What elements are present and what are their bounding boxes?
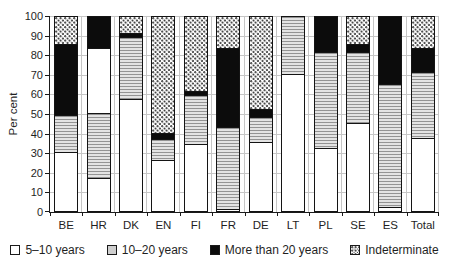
x-axis-tick xyxy=(212,212,213,216)
bar-segment-y20plus xyxy=(314,16,338,53)
legend-item-y20plus: More than 20 years xyxy=(210,243,328,257)
bar-segment-y10_20 xyxy=(411,73,435,140)
x-axis-tick xyxy=(82,212,83,216)
bar-segment-y10_20 xyxy=(378,85,402,208)
x-axis-tick xyxy=(180,212,181,216)
bar-EN xyxy=(151,16,175,212)
gridline-vertical xyxy=(406,16,407,212)
bar-segment-indet xyxy=(151,16,175,134)
bar-segment-y20plus xyxy=(249,110,273,118)
y-tick-label: 80 xyxy=(13,49,43,61)
plot-area: 0102030405060708090100BEHRDKENFIFRDELTPL… xyxy=(49,16,439,213)
gridline-vertical xyxy=(114,16,115,212)
legend-swatch-y10_20 xyxy=(107,245,117,255)
legend-swatch-y5_10 xyxy=(10,245,20,255)
y-axis-tick xyxy=(45,211,49,212)
bar-PL xyxy=(314,16,338,212)
y-axis-tick xyxy=(45,134,49,135)
x-axis-tick xyxy=(50,212,51,216)
legend-item-y10_20: 10–20 years xyxy=(107,243,188,257)
y-axis-tick xyxy=(45,36,49,37)
bar-segment-y5_10 xyxy=(314,149,338,212)
gridline-vertical xyxy=(146,16,147,212)
y-tick-label: 30 xyxy=(13,147,43,159)
legend-item-y5_10: 5–10 years xyxy=(10,243,84,257)
bar-segment-y5_10 xyxy=(87,49,111,114)
bar-segment-y5_10 xyxy=(411,139,435,212)
x-category-label: HR xyxy=(82,219,114,231)
bar-segment-y10_20 xyxy=(184,96,208,145)
bar-LT xyxy=(281,16,305,212)
y-axis-tick xyxy=(45,94,49,95)
x-category-label: FI xyxy=(180,219,212,231)
bar-segment-y20plus xyxy=(87,16,111,49)
y-axis-tick xyxy=(45,114,49,115)
x-category-label: ES xyxy=(374,219,406,231)
bar-segment-indet xyxy=(119,16,143,34)
gridline-vertical xyxy=(373,16,374,212)
x-category-label: DE xyxy=(245,219,277,231)
bar-segment-y10_20 xyxy=(314,53,338,149)
x-category-label: FR xyxy=(212,219,244,231)
bar-FI xyxy=(184,16,208,212)
legend-label-y20plus: More than 20 years xyxy=(225,243,328,257)
x-axis-tick xyxy=(438,212,439,216)
y-axis-tick xyxy=(45,173,49,174)
x-category-label: EN xyxy=(147,219,179,231)
x-axis-tick xyxy=(407,212,408,216)
bar-segment-y10_20 xyxy=(54,116,78,153)
y-tick-label: 60 xyxy=(13,88,43,100)
x-axis-tick xyxy=(147,212,148,216)
legend-item-indet: Indeterminate xyxy=(350,243,438,257)
y-axis-tick xyxy=(45,153,49,154)
bar-segment-y5_10 xyxy=(184,145,208,212)
bar-segment-y20plus xyxy=(346,45,370,53)
x-category-label: Total xyxy=(407,219,439,231)
bar-segment-y5_10 xyxy=(216,210,240,212)
x-category-label: BE xyxy=(50,219,82,231)
bar-HR xyxy=(87,16,111,212)
bar-segment-y20plus xyxy=(378,16,402,85)
bar-SE xyxy=(346,16,370,212)
gridline-vertical xyxy=(81,16,82,212)
legend-label-y10_20: 10–20 years xyxy=(122,243,188,257)
legend: 5–10 years10–20 yearsMore than 20 yearsI… xyxy=(0,243,449,257)
y-axis-tick xyxy=(45,75,49,76)
y-tick-label: 50 xyxy=(13,108,43,120)
bar-segment-y5_10 xyxy=(87,179,111,212)
bar-Total xyxy=(411,16,435,212)
bar-FR xyxy=(216,16,240,212)
legend-swatch-y20plus xyxy=(210,245,220,255)
gridline-vertical xyxy=(341,16,342,212)
bar-segment-indet xyxy=(346,16,370,45)
bar-segment-y5_10 xyxy=(378,208,402,212)
x-axis-tick xyxy=(309,212,310,216)
y-tick-label: 40 xyxy=(13,128,43,140)
y-axis-tick xyxy=(45,55,49,56)
x-category-label: SE xyxy=(342,219,374,231)
x-axis-tick xyxy=(342,212,343,216)
legend-label-y5_10: 5–10 years xyxy=(25,243,84,257)
bar-segment-y5_10 xyxy=(281,75,305,212)
bar-BE xyxy=(54,16,78,212)
y-tick-label: 20 xyxy=(13,167,43,179)
x-axis-tick xyxy=(277,212,278,216)
bar-DK xyxy=(119,16,143,212)
bar-segment-indet xyxy=(411,16,435,49)
gridline-vertical xyxy=(438,16,439,212)
y-tick-label: 90 xyxy=(13,30,43,42)
gridline-vertical xyxy=(179,16,180,212)
gridline-vertical xyxy=(244,16,245,212)
y-tick-label: 0 xyxy=(13,206,43,218)
x-category-label: PL xyxy=(309,219,341,231)
bar-segment-y5_10 xyxy=(249,143,273,212)
y-axis-tick xyxy=(45,16,49,17)
bar-segment-y5_10 xyxy=(346,124,370,212)
legend-label-indet: Indeterminate xyxy=(365,243,438,257)
x-category-label: LT xyxy=(277,219,309,231)
bar-segment-y20plus xyxy=(54,45,78,116)
bar-segment-y10_20 xyxy=(249,118,273,143)
bar-segment-y10_20 xyxy=(216,128,240,210)
bar-segment-y20plus xyxy=(411,49,435,73)
bar-segment-y5_10 xyxy=(119,100,143,212)
